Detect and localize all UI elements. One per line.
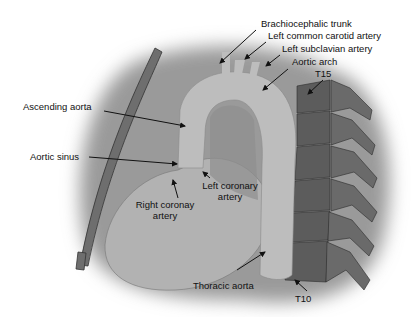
label-ascending-aorta: Ascending aorta [23, 101, 92, 112]
label-right-coronary-line1: Right coronay [130, 199, 200, 210]
label-thoracic-aorta: Thoracic aorta [193, 280, 254, 291]
label-aortic-sinus: Aortic sinus [30, 151, 79, 162]
label-right-coronary-line2: artery [130, 210, 200, 221]
label-left-common-carotid-artery: Left common carotid artery [268, 30, 381, 41]
label-left-coronary-line1: Left coronary [195, 180, 265, 191]
label-left-coronary-line2: artery [195, 191, 265, 202]
label-t15: T15 [315, 68, 331, 79]
label-brachiocephalic-trunk: Brachiocephalic trunk [261, 18, 352, 29]
label-left-subclavian-artery: Left subclavian artery [282, 43, 372, 54]
label-left-coronary-artery: Left coronary artery [195, 180, 265, 202]
label-right-coronary-artery: Right coronay artery [130, 199, 200, 221]
label-aortic-arch: Aortic arch [292, 56, 337, 67]
label-t10: T10 [295, 293, 311, 304]
